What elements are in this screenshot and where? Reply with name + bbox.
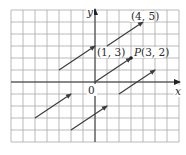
vector-diagram: 0 y x (1, 3) (4, 5) P(3, 2) xyxy=(0,0,186,155)
point-4-5-label: (4, 5) xyxy=(131,10,159,22)
point-P-dot xyxy=(129,56,133,60)
point-P-label: P(3, 2) xyxy=(133,46,169,58)
y-axis-label: y xyxy=(86,6,94,18)
origin-label: 0 xyxy=(88,84,95,96)
x-axis-label: x xyxy=(175,85,181,97)
point-P-coords: (3, 2) xyxy=(141,46,169,58)
point-1-3-label: (1, 3) xyxy=(97,46,125,58)
